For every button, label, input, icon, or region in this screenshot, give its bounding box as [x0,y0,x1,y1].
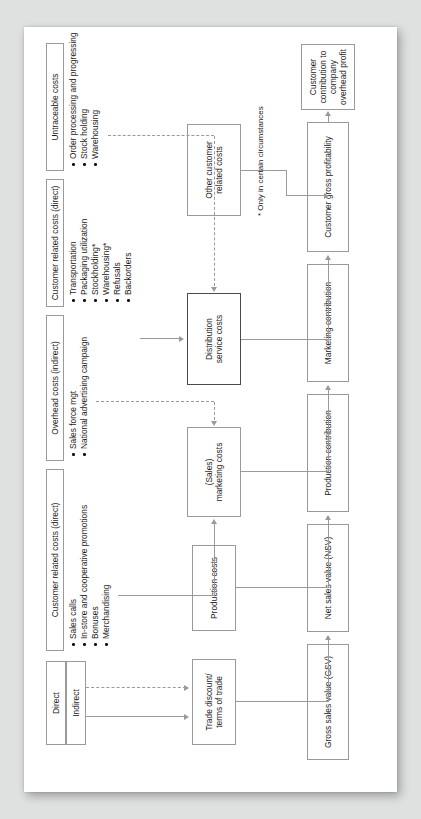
list-item: Bonuses [90,472,101,647]
cost-group-title-0: Customer related costs (direct) [46,469,64,651]
connector-trade-vertical [236,701,328,702]
chain-nsv-to-production [328,519,329,524]
connector-group0-vertical [118,595,214,596]
list-item: Order processing and progressing [68,46,79,167]
connector-direct-vertical [86,716,186,717]
legend-indirect-box: Indirect [66,661,86,745]
list-item: In-store and cooperative promotions [79,472,90,647]
list-item: Transportation [68,182,79,303]
connector-marketing-vertical [241,471,328,472]
arrowhead-group1 [211,421,217,426]
arrowhead-group3 [211,287,217,292]
arrowhead-other [324,193,329,199]
connector-production-horizontal [328,520,329,588]
cost-box-marketing-costs: (Sales) marketing costs [187,427,241,517]
connector-production-vertical [236,587,328,588]
connector-marketing-horizontal [328,390,329,472]
list-item: Stock holding [79,46,90,167]
connector-group0-horizontal [214,524,215,596]
list-item: Backorders [123,182,134,303]
list-item: Packaging utilization [79,182,90,303]
arrowhead-direct [184,714,189,720]
legend-direct-box: Direct [46,661,66,745]
connector-group3-vertical [108,135,214,136]
connector-other-vertical-2 [286,195,328,196]
chain-marketing-to-gross [328,259,329,264]
list-item: Warehousing* [101,182,112,303]
diagram-viewport: Direct Indirect Customer related costs (… [24,27,397,792]
cost-group-items-0: Sales calls In-store and cooperative pro… [64,469,118,651]
list-item: Sales calls [68,472,79,647]
list-item: Stockholding* [90,182,101,303]
flow-box-customer-contribution: Customer contribution to company overhea… [301,44,355,110]
chain-gross-to-contribution [328,116,329,122]
cost-box-trade-discount: Trade discount/ terms of trade [192,659,236,745]
cost-group-title-3: Untraceable costs [46,43,64,171]
list-item: National advertising campaign [79,318,90,457]
connector-other-horizontal [286,170,287,196]
connector-group1-vertical [96,401,214,402]
arrowhead-indirect [184,685,189,691]
cost-box-distribution-costs: Distribution service costs [187,293,241,385]
connector-distribution-horizontal [328,260,329,340]
cost-group-items-3: Order processing and progressing Stock h… [64,43,108,171]
cost-group-title-2: Customer related costs (direct) [46,179,64,307]
connector-group2-vertical [140,338,179,339]
arrowhead-group2 [179,336,184,342]
arrowhead-group0 [211,519,217,524]
list-item: Sales force mgt [68,318,79,457]
page-sheet: Direct Indirect Customer related costs (… [24,27,397,792]
list-item: Refusals [112,182,123,303]
chain-production-to-marketing [328,389,329,394]
connector-distribution-vertical [241,339,328,340]
arrowhead-chain-final [325,111,331,116]
cost-group-items-2: Transportation Packaging utilization Sto… [64,179,140,307]
connector-group3-horizontal [214,136,215,286]
cost-group-items-1: Sales force mgt National advertising cam… [64,315,96,461]
flow-box-customer-gross-profitability: Customer gross profitability [307,122,349,252]
connector-trade-horizontal [328,640,329,702]
connector-group1-horizontal [214,402,215,420]
footnote: * Only in certain circumstances [256,106,265,216]
list-item: Warehousing [90,46,101,167]
cost-group-title-1: Overhead costs (indirect) [46,315,64,461]
chain-gsv-to-nsv [328,639,329,644]
flowchart-canvas: Direct Indirect Customer related costs (… [24,27,397,792]
connector-indirect-vertical [86,687,186,688]
list-item: Merchandising [101,472,112,647]
